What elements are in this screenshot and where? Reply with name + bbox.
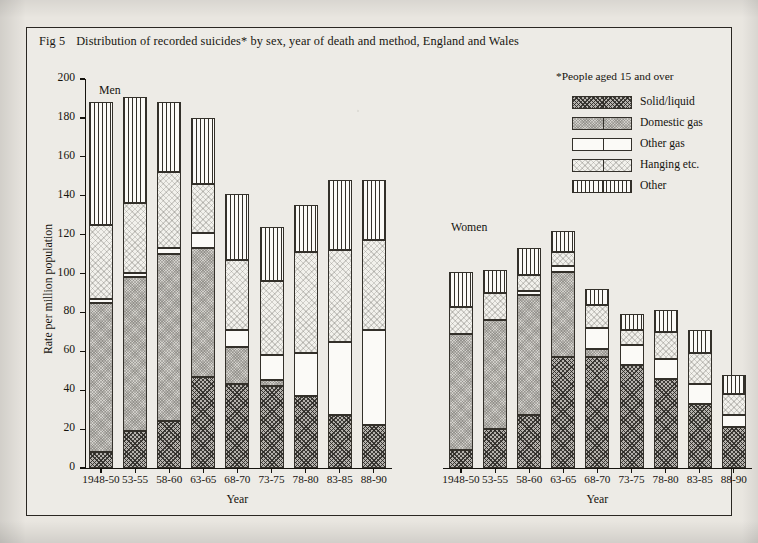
panel-title-men: Men (99, 83, 121, 98)
figure-title-text: Distribution of recorded suicides* by se… (76, 34, 519, 48)
bar-women-63-65 (551, 231, 575, 468)
bar-segment-solid-liquid (328, 415, 352, 468)
y-axis-tick-label: 60 (45, 345, 75, 355)
bar-segment-other-gas (328, 342, 352, 416)
bar-men-1948-50 (89, 102, 113, 468)
y-axis-tick-label: 140 (45, 190, 75, 200)
bar-segment-other (157, 102, 181, 172)
y-axis-tick-label: 40 (45, 384, 75, 394)
y-axis-tick (80, 351, 85, 352)
bar-segment-domestic-gas (191, 248, 215, 376)
bar-segment-other (225, 194, 249, 260)
y-axis-tick (80, 117, 85, 118)
x-axis-title-men: Year (197, 492, 277, 507)
legend-item-other: Other (572, 180, 732, 194)
bar-segment-other-gas (225, 330, 249, 348)
legend-item-othergas: Other gas (572, 138, 732, 152)
bar-segment-other-gas (362, 330, 386, 425)
bar-segment-domestic-gas (483, 320, 507, 429)
bar-men-63-65 (191, 118, 215, 468)
y-axis-tick-label: 20 (45, 423, 75, 433)
y-axis-tick (80, 390, 85, 391)
bar-segment-hanging-etc (225, 260, 249, 330)
bar-segment-domestic-gas (449, 334, 473, 451)
bar-segment-other-gas (620, 345, 644, 364)
y-axis-tick-label: 100 (45, 268, 75, 278)
bar-segment-solid-liquid (123, 431, 147, 468)
bar-segment-other (362, 180, 386, 240)
bar-segment-domestic-gas (260, 380, 284, 386)
bar-segment-domestic-gas (123, 277, 147, 431)
bar-segment-hanging-etc (620, 330, 644, 346)
bar-segment-solid-liquid (260, 386, 284, 468)
bar-segment-other (328, 180, 352, 250)
bar-segment-other-gas (294, 353, 318, 396)
figure-footnote: *People aged 15 and over (556, 70, 674, 82)
y-axis-tick (80, 312, 85, 313)
legend-swatch-othergas (572, 138, 632, 151)
legend-item-domestic: Domestic gas (572, 117, 732, 131)
figure-number: Fig 5 (39, 34, 65, 48)
bar-segment-hanging-etc (483, 293, 507, 320)
bar-segment-domestic-gas (157, 254, 181, 421)
bar-segment-solid-liquid (688, 404, 712, 468)
bar-segment-other-gas (260, 355, 284, 380)
bar-segment-hanging-etc (722, 394, 746, 415)
bar-segment-other (260, 227, 284, 281)
bar-segment-solid-liquid (585, 357, 609, 468)
y-axis-tick-label: 0 (45, 462, 75, 472)
bar-women-58-60 (517, 248, 541, 468)
bar-segment-other-gas (191, 233, 215, 249)
bar-segment-other-gas (517, 291, 541, 295)
bar-segment-other-gas (688, 384, 712, 403)
figure-page: Fig 5Distribution of recorded suicides* … (0, 0, 758, 543)
bar-men-53-55 (123, 97, 147, 468)
y-axis-tick-label: 200 (45, 73, 75, 83)
bar-segment-domestic-gas (225, 347, 249, 384)
bar-men-73-75 (260, 227, 284, 468)
bar-segment-other-gas (654, 359, 678, 378)
bar-segment-solid-liquid (654, 379, 678, 468)
bar-segment-hanging-etc (123, 203, 147, 273)
bar-segment-domestic-gas (585, 349, 609, 357)
y-axis (85, 79, 86, 469)
figure-title: Fig 5Distribution of recorded suicides* … (39, 34, 519, 49)
y-axis-tick (80, 234, 85, 235)
bar-segment-other-gas (722, 415, 746, 427)
y-axis-tick (80, 273, 85, 274)
legend-item-hanging: Hanging etc. (572, 159, 732, 173)
bar-segment-hanging-etc (328, 250, 352, 341)
bar-segment-other (294, 205, 318, 252)
bar-segment-other (483, 270, 507, 293)
legend-label-solid: Solid/liquid (640, 95, 695, 108)
bar-segment-solid-liquid (225, 384, 249, 468)
bar-segment-other (191, 118, 215, 184)
y-axis-tick-label: 120 (45, 229, 75, 239)
bar-women-1948-50 (449, 272, 473, 468)
legend-swatch-domestic (572, 117, 632, 130)
bar-segment-hanging-etc (89, 225, 113, 299)
x-axis-tick-label: 88-90 (346, 474, 402, 485)
legend-item-solid: Solid/liquid (572, 96, 732, 110)
y-axis-tick (80, 78, 85, 79)
bar-segment-hanging-etc (362, 240, 386, 329)
bar-segment-hanging-etc (260, 281, 284, 355)
legend-swatch-other (572, 180, 632, 193)
legend-swatch-hanging (572, 159, 632, 172)
bar-women-78-80 (654, 310, 678, 468)
bar-segment-other (89, 102, 113, 225)
legend-label-othergas: Other gas (640, 137, 685, 150)
bar-segment-other (449, 272, 473, 307)
bar-segment-solid-liquid (483, 429, 507, 468)
bar-women-53-55 (483, 270, 507, 468)
bar-segment-other (517, 248, 541, 275)
bar-men-58-60 (157, 102, 181, 468)
bar-segment-hanging-etc (157, 172, 181, 248)
bar-segment-hanging-etc (585, 305, 609, 328)
bar-segment-hanging-etc (551, 252, 575, 266)
bar-segment-other-gas (585, 328, 609, 349)
bar-segment-other (654, 310, 678, 331)
bar-segment-solid-liquid (191, 377, 215, 468)
legend: Solid/liquidDomestic gasOther gasHanging… (572, 96, 732, 206)
bar-women-73-75 (620, 314, 644, 468)
